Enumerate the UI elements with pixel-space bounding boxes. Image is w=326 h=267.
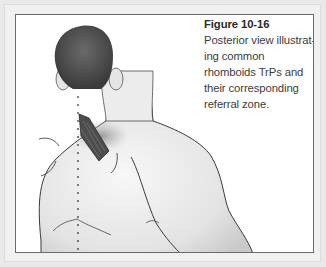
figure-label: Figure 10-16 bbox=[204, 18, 269, 30]
caption-line-3: their corresponding referral zone. bbox=[204, 82, 299, 110]
head-shape bbox=[55, 26, 113, 89]
caption-line-1: Posterior view illustrat- bbox=[204, 34, 314, 46]
caption-line-2: ing common rhomboids TrPs and bbox=[204, 50, 303, 78]
figure-box: Figure 10-16 Posterior view illustrat- i… bbox=[15, 14, 314, 253]
figure-caption: Figure 10-16 Posterior view illustrat- i… bbox=[204, 16, 314, 112]
